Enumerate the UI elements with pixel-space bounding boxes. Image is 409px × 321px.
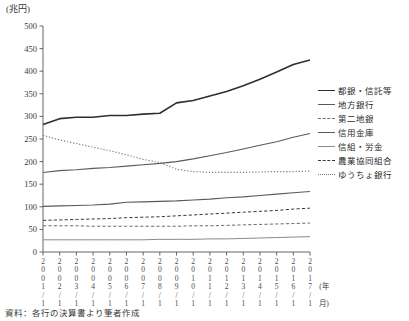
- x-axis-tick-label-char: 1: [175, 299, 179, 308]
- x-axis-caption-year: (年: [319, 281, 329, 291]
- series-line-6: [43, 208, 310, 220]
- series-line-3: [43, 223, 310, 226]
- y-axis-tick-label: 150: [24, 179, 37, 189]
- legend-item-label: 第二地銀: [338, 112, 374, 126]
- legend-item[interactable]: 信用金庫: [318, 126, 408, 140]
- legend-item[interactable]: 都銀・信託等: [318, 84, 408, 98]
- series-line-4: [43, 191, 310, 206]
- legend-item[interactable]: 第二地銀: [318, 112, 408, 126]
- x-axis-tick-label-char: 1: [258, 299, 262, 308]
- series-line-7: [43, 135, 310, 172]
- series-line-5: [43, 237, 310, 240]
- legend-item[interactable]: 農業協同組合: [318, 154, 408, 168]
- legend-item[interactable]: ゆうちょ銀行: [318, 168, 408, 182]
- x-axis-tick-label-char: 1: [308, 299, 312, 308]
- legend-item-label: 信組・労金: [338, 140, 383, 154]
- x-axis-tick-label-char: 1: [158, 299, 162, 308]
- y-axis-tick-label: 450: [24, 44, 37, 54]
- y-axis-tick-label: 400: [24, 66, 37, 76]
- legend-item-label: 都銀・信託等: [338, 84, 392, 98]
- series-line-1: [43, 60, 310, 125]
- x-axis-tick-label-char: 1: [208, 299, 212, 308]
- y-axis-tick-label: 250: [24, 134, 37, 144]
- y-axis-tick-label: 200: [24, 157, 37, 167]
- x-axis-tick-label-char: 1: [241, 299, 245, 308]
- y-axis-tick-label: 300: [24, 111, 37, 121]
- legend-item-label: ゆうちょ銀行: [338, 168, 392, 182]
- legend-item[interactable]: 地方銀行: [318, 98, 408, 112]
- y-axis-tick-label: 350: [24, 89, 37, 99]
- legend-item[interactable]: 信組・労金: [318, 140, 408, 154]
- y-axis-tick-label: 500: [24, 21, 37, 31]
- x-axis-tick-label-char: 1: [275, 299, 279, 308]
- source-note: 資料：各行の決算書より筆者作成: [5, 306, 140, 318]
- x-axis-caption-month: 月): [319, 299, 329, 308]
- x-axis-tick-label-char: 1: [225, 299, 229, 308]
- legend-item-label: 信用金庫: [338, 126, 374, 140]
- chart-figure: (兆円) 0501001502002503003504004505002001/…: [0, 0, 409, 321]
- chart-legend: 都銀・信託等地方銀行第二地銀信用金庫信組・労金農業協同組合ゆうちょ銀行: [318, 84, 408, 182]
- y-axis-tick-label: 100: [24, 202, 37, 212]
- x-axis-tick-label-char: 1: [291, 299, 295, 308]
- x-axis-tick-label-char: 1: [191, 299, 195, 308]
- series-line-2: [43, 134, 310, 173]
- y-axis-tick-label: 50: [29, 224, 38, 234]
- legend-item-label: 地方銀行: [338, 98, 374, 112]
- y-axis-tick-label: 0: [33, 247, 37, 257]
- legend-item-label: 農業協同組合: [338, 154, 392, 168]
- x-axis-tick-label-char: 1: [141, 299, 145, 308]
